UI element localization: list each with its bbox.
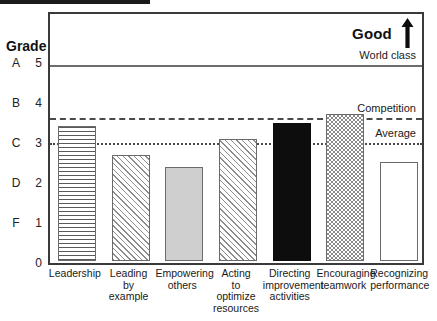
x-label-directing-improvement-activities: Directingimprovementactivities bbox=[263, 268, 317, 303]
bar-acting-to-optimize-resources bbox=[219, 139, 257, 261]
x-label-line: Acting bbox=[209, 268, 263, 280]
good-direction-indicator: Good bbox=[352, 18, 414, 48]
x-label-line: Leadership bbox=[48, 268, 102, 280]
x-label-line: Leading bbox=[102, 268, 156, 280]
y-axis-title: Grade bbox=[6, 38, 46, 54]
bar-directing-improvement-activities bbox=[273, 123, 311, 261]
x-label-line: example bbox=[102, 291, 156, 303]
plot-area: World classCompetitionAverage Good bbox=[48, 12, 424, 265]
x-label-encouraging-teamwork: Encouragingteamwork bbox=[317, 268, 371, 291]
x-label-recognizing-performance: Recognizingperformance bbox=[370, 268, 424, 291]
page-top-rule bbox=[0, 0, 150, 4]
y-tick-grade-F: F bbox=[8, 216, 24, 230]
bar-recognizing-performance bbox=[380, 162, 418, 261]
x-label-line: resources bbox=[209, 303, 263, 315]
y-tick-grade-A: A bbox=[8, 56, 24, 70]
y-tick-number-2: 2 bbox=[30, 176, 42, 190]
x-label-line: Empowering bbox=[155, 268, 209, 280]
bar-leadership bbox=[58, 126, 96, 261]
x-label-line: others bbox=[155, 280, 209, 292]
y-tick-number-3: 3 bbox=[30, 136, 42, 150]
bar-leading-by-example bbox=[112, 155, 150, 261]
good-label: Good bbox=[352, 25, 392, 42]
bars-layer bbox=[50, 14, 422, 263]
x-label-line: optimize bbox=[209, 291, 263, 303]
x-label-line: performance bbox=[370, 280, 424, 292]
x-label-leading-by-example: Leadingbyexample bbox=[102, 268, 156, 303]
x-label-acting-to-optimize-resources: Actingtooptimizeresources bbox=[209, 268, 263, 314]
x-label-line: Encouraging bbox=[317, 268, 371, 280]
y-tick-grade-C: C bbox=[8, 136, 24, 150]
x-label-line: Recognizing bbox=[370, 268, 424, 280]
x-axis-labels: LeadershipLeadingbyexampleEmpoweringothe… bbox=[48, 268, 424, 320]
x-label-line: Directing bbox=[263, 268, 317, 280]
y-tick-grade-B: B bbox=[8, 96, 24, 110]
y-tick-number-4: 4 bbox=[30, 96, 42, 110]
bar-empowering-others bbox=[165, 167, 203, 261]
x-label-empowering-others: Empoweringothers bbox=[155, 268, 209, 291]
y-tick-number-0: 0 bbox=[30, 256, 42, 270]
x-label-leadership: Leadership bbox=[48, 268, 102, 280]
y-tick-number-1: 1 bbox=[30, 216, 42, 230]
y-tick-grade-D: D bbox=[8, 176, 24, 190]
y-tick-number-5: 5 bbox=[30, 56, 42, 70]
bar-encouraging-teamwork bbox=[326, 114, 364, 261]
up-arrow-icon bbox=[401, 18, 414, 48]
x-label-line: teamwork bbox=[317, 280, 371, 292]
x-label-line: activities bbox=[263, 291, 317, 303]
